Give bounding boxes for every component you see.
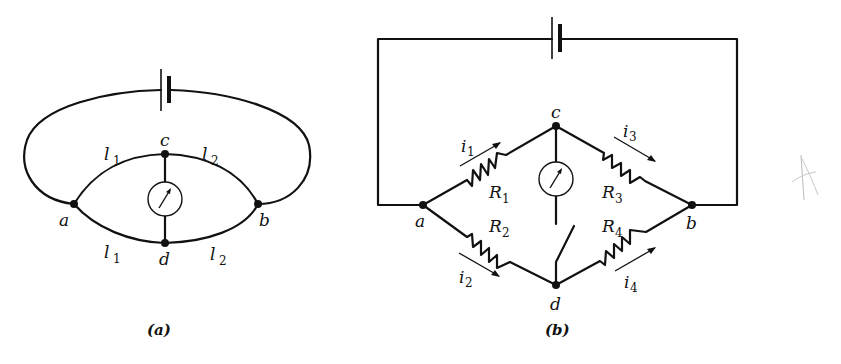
label-r2: R 2 <box>488 216 510 240</box>
label-node-c: c <box>160 130 170 150</box>
label-r4: R 4 <box>601 216 623 240</box>
outer-wire-right <box>171 90 310 204</box>
svg-text:i: i <box>461 136 466 156</box>
node-a <box>70 200 78 208</box>
battery-icon <box>552 17 560 59</box>
svg-text:R: R <box>601 216 615 236</box>
svg-text:l: l <box>104 144 109 164</box>
node-c <box>161 150 169 158</box>
caption-a: (a) <box>147 321 171 339</box>
label-node-b: b <box>259 210 270 230</box>
node-c <box>552 122 560 130</box>
node-d <box>161 239 169 247</box>
pencil-scribble-icon <box>792 155 818 200</box>
svg-text:1: 1 <box>502 192 510 206</box>
label-l1-upper: l 1 <box>104 144 121 168</box>
label-r1: R 1 <box>488 182 510 206</box>
svg-text:1: 1 <box>113 154 121 168</box>
label-l2-lower: l 2 <box>210 244 227 268</box>
outer-wire-left <box>24 90 161 204</box>
svg-text:i: i <box>623 121 628 141</box>
svg-text:1: 1 <box>467 145 475 159</box>
label-node-a: a <box>59 210 69 230</box>
circuit-figures: a c b d l 1 l 2 l 1 l 2 (a) <box>0 0 841 364</box>
battery-icon <box>161 69 169 111</box>
label-node-d: d <box>550 294 561 314</box>
figure-a: a c b d l 1 l 2 l 1 l 2 (a) <box>24 69 310 339</box>
node-b <box>254 200 262 208</box>
svg-text:3: 3 <box>629 130 637 144</box>
galvanometer-icon <box>148 182 182 216</box>
svg-text:l: l <box>202 144 207 164</box>
label-node-a: a <box>415 211 425 231</box>
label-l2-upper: l 2 <box>202 144 219 168</box>
node-a <box>419 201 427 209</box>
svg-text:3: 3 <box>615 192 623 206</box>
svg-text:1: 1 <box>113 252 121 266</box>
svg-text:2: 2 <box>465 276 473 290</box>
current-arrow-i3: i 3 <box>614 121 656 162</box>
svg-text:4: 4 <box>615 226 623 240</box>
svg-text:2: 2 <box>219 254 227 268</box>
label-node-c: c <box>551 102 561 122</box>
svg-text:R: R <box>488 182 502 202</box>
node-d <box>552 281 560 289</box>
label-l1-lower: l 1 <box>104 242 121 266</box>
svg-text:i: i <box>459 267 464 287</box>
svg-text:l: l <box>104 242 109 262</box>
label-node-d: d <box>159 249 170 269</box>
svg-text:R: R <box>601 182 615 202</box>
svg-text:4: 4 <box>630 281 638 295</box>
svg-text:i: i <box>624 272 629 292</box>
figure-b: a c b d R 1 R 2 R 3 R 4 i 1 <box>378 17 737 339</box>
svg-text:l: l <box>210 244 215 264</box>
svg-text:2: 2 <box>211 154 219 168</box>
galvanometer-icon <box>539 162 573 196</box>
label-node-b: b <box>686 213 697 233</box>
current-arrow-i4: i 4 <box>615 247 656 295</box>
svg-text:2: 2 <box>502 226 510 240</box>
node-b <box>688 201 696 209</box>
caption-b: (b) <box>545 321 570 339</box>
svg-text:R: R <box>488 216 502 236</box>
outer-wire-right <box>562 39 737 205</box>
label-r3: R 3 <box>601 182 623 206</box>
